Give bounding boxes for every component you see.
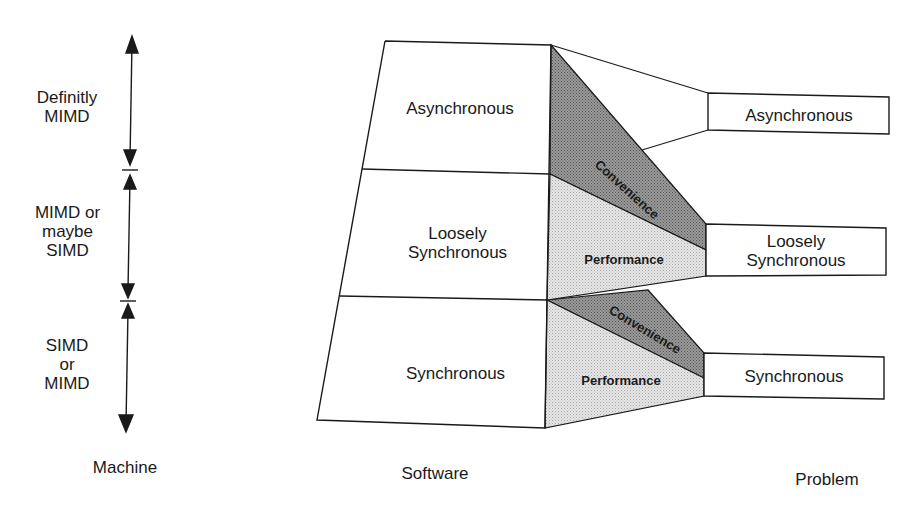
label-line: or	[22, 355, 112, 374]
range-line-3	[126, 310, 128, 425]
label-line: Synchronous	[368, 364, 543, 383]
range-line-1	[130, 42, 132, 160]
software-divider-1	[362, 169, 550, 174]
software-level-async-label: Asynchronous	[375, 99, 545, 118]
label-line: MIMD	[22, 374, 112, 393]
label-line: Loosely	[707, 232, 885, 251]
label-line: Asynchronous	[375, 99, 545, 118]
machine-range-2-label: MIMD or maybe SIMD	[20, 203, 115, 260]
column-title-machine: Machine	[70, 458, 180, 477]
problem-level-async-label: Asynchronous	[710, 106, 888, 125]
label-line: SIMD	[20, 241, 115, 260]
performance-label-lower: Performance	[561, 371, 681, 390]
performance-label-upper: Performance	[564, 250, 684, 269]
column-title-software: Software	[380, 464, 490, 483]
arrow-down-icon	[122, 284, 134, 298]
problem-level-loosely-label: Loosely Synchronous	[707, 232, 885, 270]
label-line: SIMD	[22, 336, 112, 355]
label-line: Synchronous	[705, 367, 883, 386]
range-line-2	[128, 178, 130, 290]
machine-axis	[119, 36, 138, 432]
label-line: Asynchronous	[710, 106, 888, 125]
label-line: MIMD	[22, 107, 112, 126]
label-line: Synchronous	[707, 251, 885, 270]
label-line: Synchronous	[370, 243, 545, 262]
label-line: Definitly	[22, 88, 112, 107]
problem-level-sync-label: Synchronous	[705, 367, 883, 386]
column-title-problem: Problem	[772, 470, 882, 489]
software-level-sync-label: Synchronous	[368, 364, 543, 383]
software-divider-2	[340, 296, 547, 300]
machine-range-1-label: Definitly MIMD	[22, 88, 112, 126]
software-level-loosely-label: Loosely Synchronous	[370, 224, 545, 262]
arrow-down-icon	[119, 415, 133, 432]
label-line: Loosely	[370, 224, 545, 243]
label-line: maybe	[20, 222, 115, 241]
arrow-up-icon	[126, 36, 138, 53]
label-line: MIMD or	[20, 203, 115, 222]
arrow-down-icon	[124, 150, 136, 165]
machine-range-3-label: SIMD or MIMD	[22, 336, 112, 393]
